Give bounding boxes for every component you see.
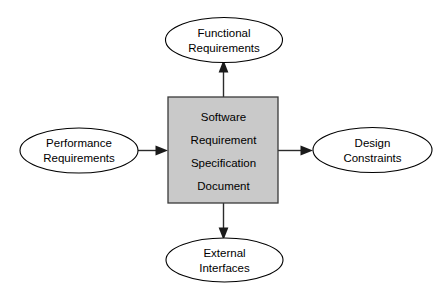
design-constraints-label-line-1: Design	[355, 137, 391, 149]
arrow-head-right-out	[301, 145, 314, 155]
design-constraints-label-line-2: Constraints	[343, 152, 401, 164]
arrow-srs-to-functional-requirements	[219, 60, 229, 97]
node-design-constraints[interactable]: Design Constraints	[313, 128, 432, 173]
functional-requirements-label-line-2: Requirements	[188, 42, 260, 54]
performance-requirements-label-line-1: Performance	[46, 137, 112, 149]
node-srs-document[interactable]: Software Requirement Specification Docum…	[168, 97, 278, 203]
functional-requirements-label-line-1: Functional	[197, 27, 250, 39]
arrow-srs-to-external-interfaces	[219, 203, 229, 240]
node-performance-requirements[interactable]: Performance Requirements	[20, 128, 138, 173]
design-constraints-ellipse	[313, 128, 432, 173]
srs-document-label-line-2: Requirement	[191, 134, 258, 146]
node-functional-requirements[interactable]: Functional Requirements	[166, 18, 283, 63]
node-external-interfaces[interactable]: External Interfaces	[166, 238, 283, 282]
srs-document-label-line-3: Specification	[191, 157, 256, 169]
performance-requirements-ellipse	[20, 128, 138, 173]
arrow-performance-requirements-to-srs	[138, 145, 168, 155]
arrow-head-left-in	[156, 145, 169, 155]
external-interfaces-label-line-1: External	[203, 247, 245, 259]
srs-document-label-line-4: Document	[197, 180, 250, 192]
srs-document-label-line-1: Software	[201, 111, 246, 123]
diagram-svg: Functional Requirements Performance Requ…	[0, 0, 447, 288]
functional-requirements-ellipse	[166, 18, 283, 63]
arrow-srs-to-design-constraints	[278, 145, 313, 155]
external-interfaces-ellipse	[166, 238, 283, 282]
diagram-canvas: Functional Requirements Performance Requ…	[0, 0, 447, 288]
external-interfaces-label-line-2: Interfaces	[199, 262, 250, 274]
performance-requirements-label-line-2: Requirements	[43, 152, 115, 164]
